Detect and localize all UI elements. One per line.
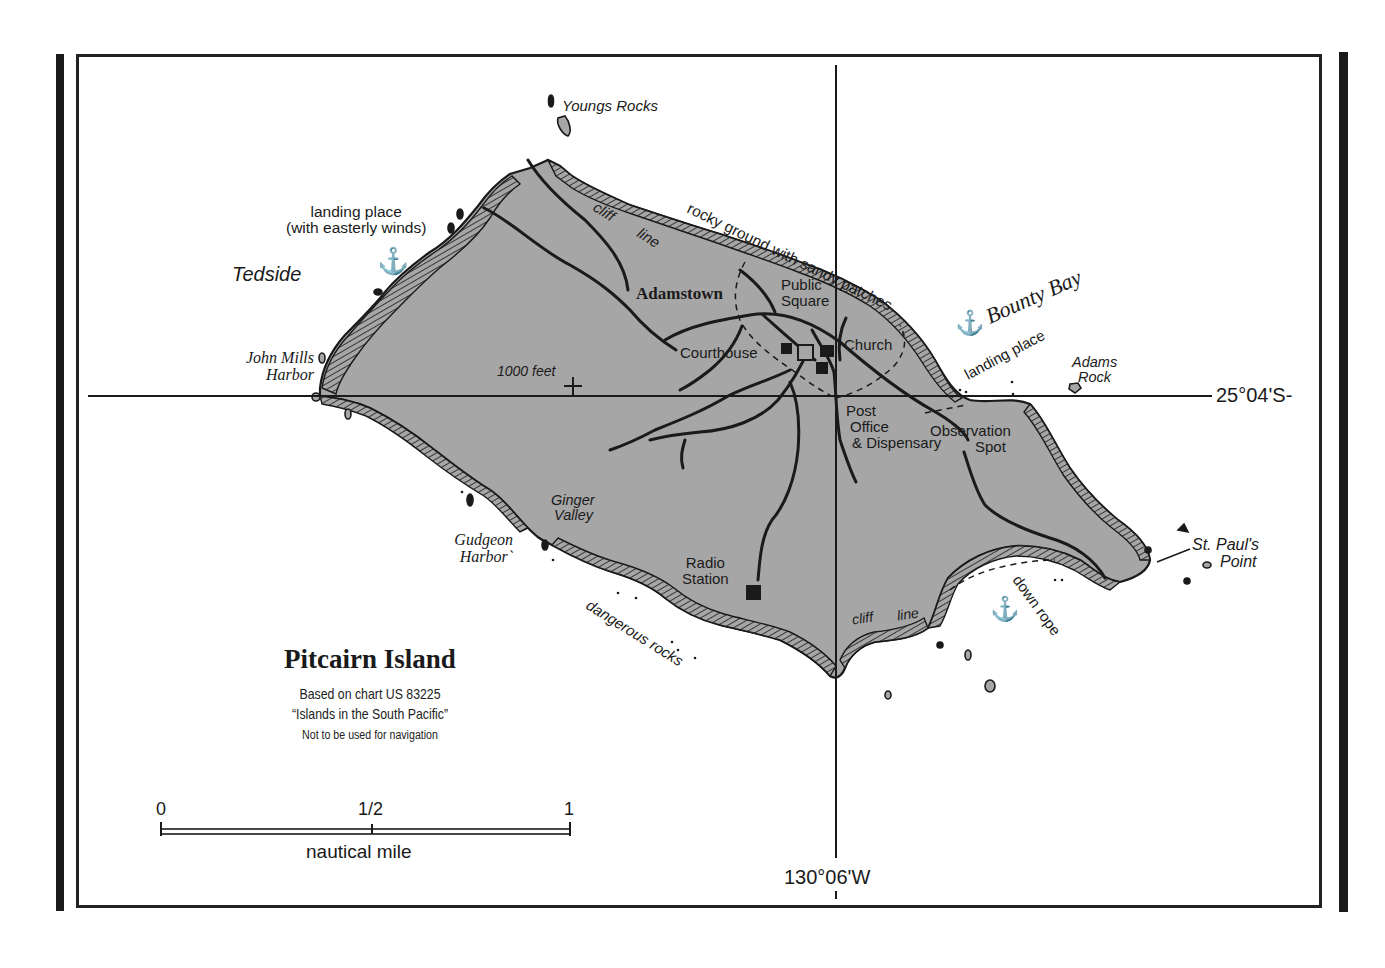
label-post-office-line1: Post (846, 403, 941, 419)
label-john-mills-harbor: John Mills Harbor (222, 350, 314, 384)
label-observation-line2: Spot (930, 439, 1011, 455)
label-public-square-line1: Public (781, 277, 829, 293)
label-st-pauls-line1: St. Paul's (1192, 537, 1259, 554)
label-observation-line1: Observation (930, 423, 1011, 439)
label-radio-station-line2: Station (682, 571, 729, 587)
label-ginger-valley-line1: Ginger (551, 493, 595, 508)
label-youngs-rocks: Youngs Rocks (562, 98, 658, 114)
anchor-icon-bounty-bay: ⚓ (955, 310, 985, 335)
label-john-mills-line1: John Mills (222, 350, 314, 367)
label-courthouse: Courthouse (680, 345, 758, 361)
label-post-office: Post Office & Dispensary (846, 403, 941, 450)
label-st-pauls-line2: Point (1192, 554, 1259, 571)
scale-tick-1: 1 (564, 799, 574, 820)
label-ginger-valley: Ginger Valley (551, 493, 595, 523)
label-adams-rock-line2: Rock (1072, 370, 1117, 385)
label-adams-rock-line1: Adams (1072, 355, 1117, 370)
label-ginger-valley-line2: Valley (551, 508, 595, 523)
map-title: Pitcairn Island (200, 644, 540, 675)
label-church: Church (844, 337, 892, 353)
church-building (820, 345, 834, 357)
label-latitude: 25°04'S- (1216, 385, 1292, 406)
label-gudgeon-harbor: Gudgeon Harbor` (433, 532, 513, 566)
label-public-square-line2: Square (781, 293, 829, 309)
label-adamstown: Adamstown (636, 285, 723, 303)
map-disclaimer: Not to be used for navigation (226, 728, 515, 742)
scale-tick-half: 1/2 (358, 799, 383, 820)
anchor-icon-tedside: ⚓ (377, 248, 409, 275)
label-gudgeon-line2: Harbor` (433, 549, 513, 566)
label-radio-station: Radio Station (682, 555, 729, 587)
label-post-office-line2: Office (846, 419, 941, 435)
label-tedside: Tedside (232, 264, 301, 285)
scale-unit: nautical mile (306, 841, 412, 863)
label-observation-spot: Observation Spot (930, 423, 1011, 455)
label-adams-rock: Adams Rock (1072, 355, 1117, 385)
label-elevation: 1000 feet (497, 364, 555, 379)
label-dangerous-rocks: dangerous rocks (583, 596, 686, 669)
anchor-icon-down-rope: ⚓ (990, 596, 1020, 621)
label-bounty-bay: Bounty Bay (982, 264, 1086, 328)
scale-tick-0: 0 (156, 799, 166, 820)
map-canvas: cliff line rocky ground with sandy patch… (0, 0, 1385, 968)
label-landing-place-west-line2: (with easterly winds) (286, 220, 426, 236)
public-square-marker (798, 345, 813, 360)
radio-station-building (746, 585, 761, 600)
courthouse-building (781, 343, 792, 354)
label-john-mills-line2: Harbor (222, 367, 314, 384)
post-office-building (816, 362, 828, 374)
label-st-pauls-point: St. Paul's Point (1192, 537, 1259, 571)
label-post-office-line3: & Dispensary (846, 435, 941, 451)
map-source-line1: Based on chart US 83225 (226, 686, 515, 702)
label-radio-station-line1: Radio (682, 555, 729, 571)
scale-bar (161, 822, 570, 836)
label-landing-place-west-line1: landing place (286, 204, 426, 220)
label-cliff-south-2: line (896, 606, 920, 624)
label-longitude: 130°06'W (784, 867, 870, 888)
label-cliff-south-1: cliff (851, 610, 874, 627)
label-landing-place-west: landing place (with easterly winds) (286, 204, 426, 237)
st-pauls-leader (1157, 549, 1190, 562)
label-gudgeon-line1: Gudgeon (433, 532, 513, 549)
label-public-square: Public Square (781, 277, 829, 309)
map-source-line2: “Islands in the South Pacific” (226, 706, 515, 722)
